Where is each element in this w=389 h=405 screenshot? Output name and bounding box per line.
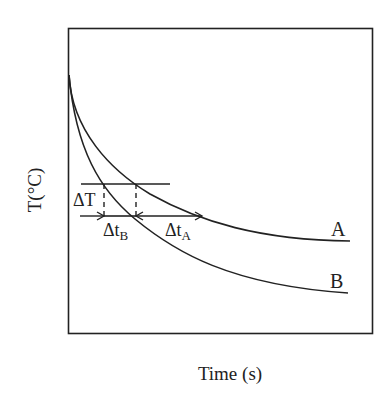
x-axis-label: Time (s) [160,363,300,385]
cooling-curve-diagram: ΔT ΔtB ΔtA A B [0,0,389,405]
curve-b-label: B [330,270,343,292]
delta-tb-label: ΔtB [103,220,129,243]
curve-a-label: A [331,218,346,240]
delta-temp-label: ΔT [73,190,96,210]
plot-frame [69,29,373,334]
delta-ta-label: ΔtA [165,220,192,243]
y-axis-label: T(°C) [24,160,46,220]
